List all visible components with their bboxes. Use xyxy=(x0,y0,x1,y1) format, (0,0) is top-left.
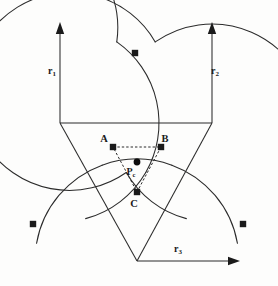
label-vertex-c: C xyxy=(130,198,138,209)
intersection-dot-bottom-right xyxy=(240,221,246,227)
arc-group-r2 xyxy=(0,0,278,219)
label-vertex-b: B xyxy=(161,133,168,144)
arc-r2-tail xyxy=(126,173,186,219)
segment-right-leg xyxy=(137,123,212,261)
arc-r2-lower-left xyxy=(0,0,155,190)
arc-r3-right xyxy=(172,165,238,243)
figure-canvas: A B C Pc r1 r2 r3 xyxy=(0,0,278,286)
arc-r2-upper xyxy=(155,24,278,109)
segment-left-leg xyxy=(60,123,137,261)
vertex-dot-a xyxy=(110,144,116,150)
label-radius-r3: r3 xyxy=(174,243,182,256)
label-vertex-a: A xyxy=(100,133,108,144)
radius-arrowhead-r3 xyxy=(228,257,240,265)
intersection-dot-top xyxy=(132,50,138,56)
construction-diagram-svg: A B C Pc r1 r2 r3 xyxy=(0,0,278,286)
intersection-dot-bottom-left xyxy=(30,221,36,227)
arc-r3-left xyxy=(37,165,103,243)
label-radius-r1: r1 xyxy=(48,65,56,78)
radius-arrow-r1 xyxy=(56,22,64,123)
arc-r1-upper xyxy=(0,0,118,109)
arc-r1-lower-right xyxy=(117,42,159,173)
arc-intersection-dots xyxy=(30,50,246,227)
radius-arrow-r3 xyxy=(137,257,240,265)
estimated-position-dot-pc xyxy=(134,159,141,166)
vertex-dot-b xyxy=(158,144,164,150)
radius-arrowhead-r1 xyxy=(56,22,64,34)
vertex-dot-c xyxy=(134,189,140,195)
label-estimated-position-pc: Pc xyxy=(127,166,136,178)
